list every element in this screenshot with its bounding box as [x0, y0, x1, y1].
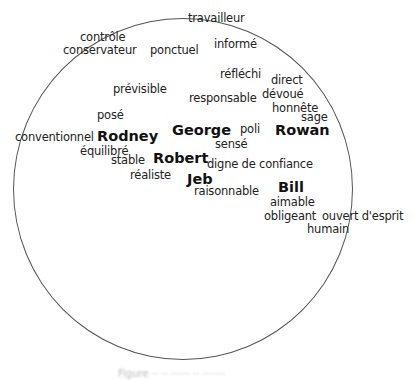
trait-label: sensé [215, 139, 247, 151]
trait-label: conventionnel [15, 132, 94, 144]
trait-label: contrôle [80, 32, 125, 44]
trait-label: raisonnable [194, 186, 259, 198]
person-name-robert: Robert [153, 151, 208, 166]
trait-label: informé [214, 39, 257, 51]
person-name-bill: Bill [278, 180, 304, 195]
trait-label: poli [240, 124, 260, 136]
trait-label: aimable [270, 197, 315, 209]
person-name-rodney: Rodney [97, 129, 158, 144]
trait-label: ouvert d'esprit [322, 211, 403, 223]
trait-label: réfléchi [220, 69, 261, 81]
trait-label: posé [97, 110, 124, 122]
trait-label: digne de confiance [207, 159, 313, 171]
trait-label: travailleur [188, 13, 245, 25]
trait-label: humain [307, 224, 349, 236]
trait-label: obligeant [264, 211, 316, 223]
trait-label: stable [111, 155, 145, 167]
figure-caption: Figure ·· ·· ······ ·· ······· [118, 368, 278, 380]
trait-label: responsable [189, 93, 257, 105]
person-name-jeb: Jeb [187, 172, 213, 187]
trait-label: conservateur [63, 45, 137, 57]
trait-label: ponctuel [150, 45, 198, 57]
trait-label: réaliste [130, 170, 171, 182]
trait-label: direct [271, 75, 303, 87]
trait-diagram: travailleurcontrôleconservateurponctueli… [0, 0, 413, 380]
trait-label: prévisible [113, 84, 167, 96]
trait-label: dévoué [262, 89, 303, 101]
person-name-rowan: Rowan [275, 123, 330, 138]
person-name-george: George [172, 123, 231, 138]
